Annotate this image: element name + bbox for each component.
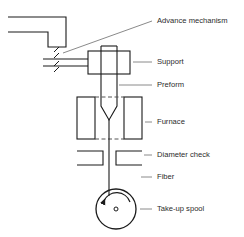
hatch-slash: [54, 67, 59, 72]
hatch-slash: [54, 61, 59, 66]
label-diameter-check: Diameter check: [157, 150, 210, 159]
spool-hub: [114, 207, 118, 211]
leader-lines: [63, 21, 152, 209]
diameter-check-left-bracket: [77, 151, 103, 165]
hatch-slash: [54, 53, 59, 58]
label-fiber: Fiber: [157, 172, 175, 181]
support-box: [88, 51, 130, 74]
preform-outline: [101, 46, 117, 120]
advance-mechanism-body: [8, 17, 66, 47]
furnace-block-left: [77, 97, 95, 139]
preform-rod: [101, 46, 117, 120]
support-arm: [43, 59, 88, 66]
fiber-drawing-tower-diagram: Advance mechanism Support Preform Furnac…: [0, 0, 244, 237]
label-support: Support: [157, 57, 184, 66]
furnace-block-right: [124, 97, 142, 139]
diagram-canvas: Advance mechanism Support Preform Furnac…: [0, 0, 244, 237]
spool-outer-circle: [96, 189, 136, 229]
diameter-check-right-bracket: [116, 151, 142, 165]
advance-mechanism-bracket: [8, 17, 66, 47]
label-take-up-spool: Take-up spool: [157, 204, 205, 213]
leader-advance-mechanism: [63, 21, 152, 53]
label-furnace: Furnace: [157, 117, 185, 126]
spool-rotation-arrow-icon: [104, 193, 130, 202]
take-up-spool: [96, 189, 136, 229]
label-preform: Preform: [157, 80, 184, 89]
label-advance-mechanism: Advance mechanism: [157, 16, 228, 25]
hatch-slash: [54, 47, 59, 52]
